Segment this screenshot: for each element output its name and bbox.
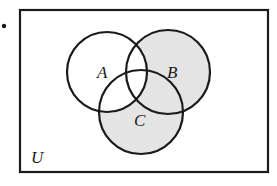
bullet-dot (2, 24, 6, 28)
universe-label: U (31, 148, 45, 167)
set-b-label: B (167, 63, 178, 82)
set-c-label: C (134, 111, 146, 130)
venn-diagram: A B C U (0, 0, 277, 186)
set-a-label: A (96, 63, 108, 82)
